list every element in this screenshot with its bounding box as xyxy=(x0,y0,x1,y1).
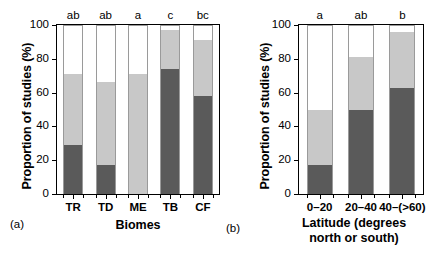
panel-b-x-axis-title: Latitude (degrees north or south) xyxy=(272,216,436,246)
stacked-bar xyxy=(160,25,180,194)
x-axis-minor-tick xyxy=(148,194,149,198)
x-axis-tick-label: TR xyxy=(66,201,81,213)
significance-label: ab xyxy=(99,9,112,21)
y-axis-tick xyxy=(294,59,299,60)
bar-outline xyxy=(307,25,333,194)
x-axis-tick-label: TB xyxy=(163,201,178,213)
panel-b-tag: (b) xyxy=(226,222,240,234)
x-axis-minor-tick xyxy=(160,194,161,198)
y-axis-tick xyxy=(52,93,57,94)
y-axis-tick-label: 100 xyxy=(272,19,291,31)
x-axis-minor-tick xyxy=(348,194,349,198)
y-axis-tick-label: 60 xyxy=(278,87,291,99)
x-axis-minor-tick xyxy=(180,194,181,198)
x-axis-minor-tick xyxy=(116,194,117,198)
panel-a: Proportion of studies (%) 020406080100TR… xyxy=(0,0,232,254)
stacked-bar xyxy=(389,25,415,194)
y-axis-tick xyxy=(294,25,299,26)
y-axis-tick-label: 100 xyxy=(30,19,49,31)
stacked-bar xyxy=(193,25,213,194)
x-axis-tick-label: 0–20 xyxy=(307,201,333,213)
y-axis-tick-label: 20 xyxy=(36,154,49,166)
significance-label: b xyxy=(399,9,405,21)
y-axis-tick-label: 0 xyxy=(285,188,291,200)
significance-label: c xyxy=(168,9,174,21)
y-axis-tick xyxy=(52,126,57,127)
x-axis-tick-label: 20–40 xyxy=(345,201,377,213)
x-axis-minor-tick xyxy=(415,194,416,198)
bar-outline xyxy=(193,25,213,194)
y-axis-tick xyxy=(52,25,57,26)
x-axis-tick-label: TD xyxy=(98,201,113,213)
panel-b-x-axis-title-line1: Latitude (degrees xyxy=(272,216,436,231)
panel-a-bars xyxy=(57,25,219,194)
x-axis-minor-tick xyxy=(374,194,375,198)
bar-outline xyxy=(96,25,116,194)
significance-label: bc xyxy=(197,9,209,21)
bar-outline xyxy=(389,25,415,194)
panel-b: Proportion of studies (%) 0204060801000–… xyxy=(232,0,436,254)
stacked-bar xyxy=(96,25,116,194)
x-axis-tick xyxy=(402,194,403,199)
y-axis-tick-label: 0 xyxy=(43,188,49,200)
bar-outline xyxy=(348,25,374,194)
y-axis-tick-label: 40 xyxy=(36,121,49,133)
x-axis-tick-label: 40–(>60) xyxy=(379,201,425,213)
x-axis-minor-tick xyxy=(83,194,84,198)
panel-b-plot-area: 0204060801000–20a20–40ab40–(>60)b xyxy=(298,24,424,195)
x-axis-tick-label: CF xyxy=(195,201,210,213)
x-axis-minor-tick xyxy=(333,194,334,198)
y-axis-tick-label: 80 xyxy=(278,53,291,65)
x-axis-tick xyxy=(73,194,74,199)
figure-root: Proportion of studies (%) 020406080100TR… xyxy=(0,0,436,254)
x-axis-minor-tick xyxy=(307,194,308,198)
y-axis-tick xyxy=(294,160,299,161)
significance-label: ab xyxy=(355,9,368,21)
y-axis-tick xyxy=(52,160,57,161)
significance-label: a xyxy=(316,9,322,21)
stacked-bar xyxy=(63,25,83,194)
significance-label: ab xyxy=(67,9,80,21)
x-axis-tick xyxy=(106,194,107,199)
panel-a-plot-area: 020406080100TRabTDabMEaTBcCFbc xyxy=(56,24,220,195)
x-axis-tick xyxy=(320,194,321,199)
x-axis-tick-label: ME xyxy=(129,201,146,213)
y-axis-tick-label: 80 xyxy=(36,53,49,65)
x-axis-minor-tick xyxy=(389,194,390,198)
y-axis-tick-label: 20 xyxy=(278,154,291,166)
y-axis-tick xyxy=(294,194,299,195)
bar-outline xyxy=(128,25,148,194)
x-axis-tick xyxy=(170,194,171,199)
stacked-bar xyxy=(348,25,374,194)
y-axis-tick xyxy=(52,194,57,195)
y-axis-tick-label: 40 xyxy=(278,121,291,133)
x-axis-minor-tick xyxy=(193,194,194,198)
x-axis-minor-tick xyxy=(63,194,64,198)
panel-a-y-axis-title: Proportion of studies (%) xyxy=(20,41,34,191)
bar-outline xyxy=(160,25,180,194)
significance-label: a xyxy=(135,9,141,21)
panel-a-tag: (a) xyxy=(10,218,24,230)
panel-a-x-axis-title: Biomes xyxy=(56,218,220,232)
y-axis-tick xyxy=(294,93,299,94)
y-axis-tick xyxy=(52,59,57,60)
y-axis-tick-label: 60 xyxy=(36,87,49,99)
x-axis-minor-tick xyxy=(96,194,97,198)
x-axis-minor-tick xyxy=(128,194,129,198)
x-axis-tick xyxy=(138,194,139,199)
panel-b-bars xyxy=(299,25,423,194)
panel-b-y-axis-title: Proportion of studies (%) xyxy=(258,41,272,191)
x-axis-tick xyxy=(361,194,362,199)
stacked-bar xyxy=(128,25,148,194)
bar-outline xyxy=(63,25,83,194)
panel-b-x-axis-title-line2: north or south) xyxy=(272,231,436,246)
y-axis-tick xyxy=(294,126,299,127)
x-axis-tick xyxy=(203,194,204,199)
stacked-bar xyxy=(307,25,333,194)
x-axis-minor-tick xyxy=(213,194,214,198)
